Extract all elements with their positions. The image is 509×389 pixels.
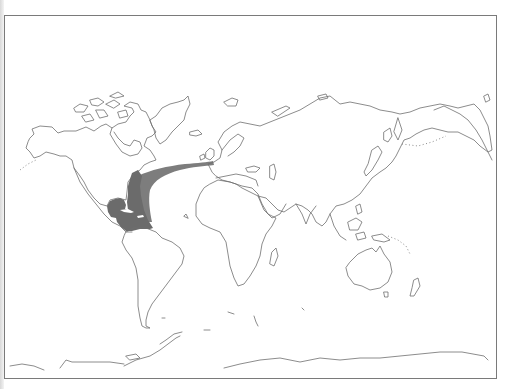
coastlines	[10, 92, 492, 370]
world-map	[0, 0, 509, 389]
eurasia-outline	[208, 96, 492, 226]
australia-outline	[346, 246, 392, 290]
antarctica-outline	[10, 364, 44, 370]
africa-outline	[196, 180, 276, 286]
species-range	[107, 161, 214, 231]
south-america-outline	[122, 228, 184, 328]
greenland-outline	[150, 96, 190, 144]
atlantic-band	[138, 161, 214, 222]
